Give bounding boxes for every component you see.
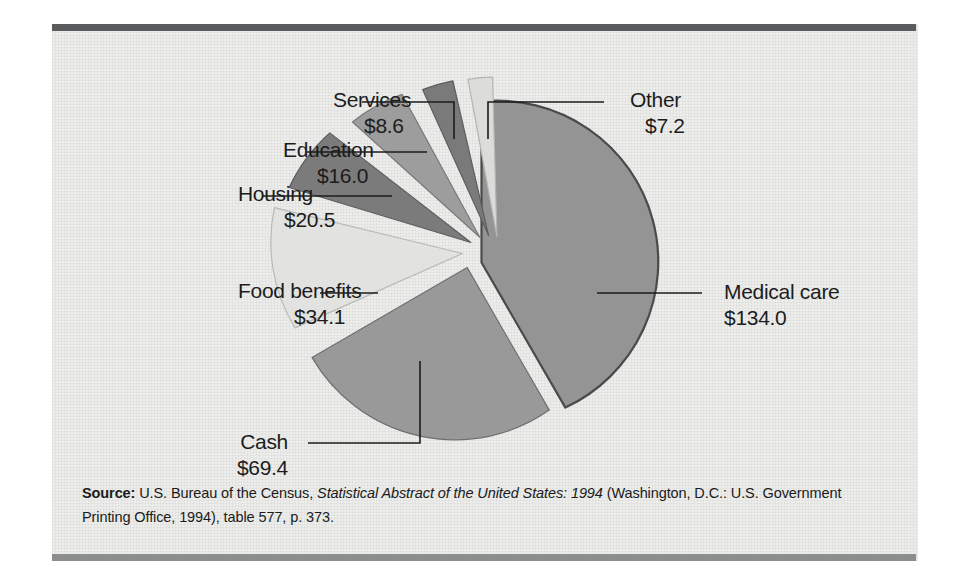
pie-slices <box>271 77 658 440</box>
slice-label-other: Other <box>630 88 681 111</box>
slice-value-other: $7.2 <box>645 114 685 137</box>
slice-label-housing: Housing <box>238 182 313 205</box>
slice-value-services: $8.6 <box>364 114 404 137</box>
figure-container: Medical care $134.0 Cash $69.4 Food bene… <box>0 0 961 581</box>
source-text-before: U.S. Bureau of the Census, <box>135 485 317 501</box>
top-rule <box>52 24 916 31</box>
slice-value-education: $16.0 <box>317 164 368 187</box>
slice-label-education: Education <box>283 138 374 161</box>
slice-value-medical-care: $134.0 <box>724 306 786 329</box>
slice-label-services: Services <box>333 88 411 111</box>
slice-value-housing: $20.5 <box>284 208 335 231</box>
slice-value-cash: $69.4 <box>237 456 289 479</box>
pie-chart: Medical care $134.0 Cash $69.4 Food bene… <box>52 31 918 471</box>
slice-label-cash: Cash <box>240 430 288 453</box>
slice-label-food-benefits: Food benefits <box>238 279 361 302</box>
source-note: Source: U.S. Bureau of the Census, Stati… <box>82 482 882 530</box>
bottom-rule <box>52 554 916 561</box>
source-label: Source: <box>82 485 135 501</box>
slice-value-food-benefits: $34.1 <box>294 305 345 328</box>
slice-label-medical-care: Medical care <box>724 280 839 303</box>
source-italic-title: Statistical Abstract of the United State… <box>317 485 603 501</box>
